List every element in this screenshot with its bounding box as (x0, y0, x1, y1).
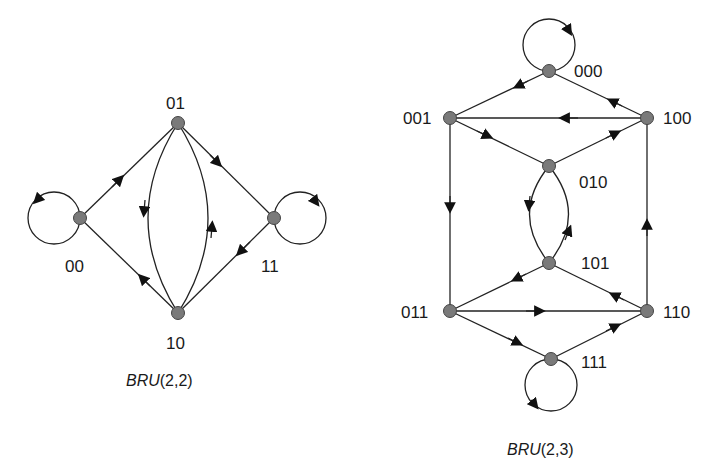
edge-011-111 (450, 311, 551, 359)
node-11 (268, 212, 281, 225)
node-010 (543, 160, 556, 173)
arrow-icon (144, 200, 145, 212)
arrow-icon (508, 338, 518, 343)
arrow-icon (612, 101, 622, 106)
edge-00-01 (80, 123, 178, 218)
label-101: 101 (581, 254, 609, 273)
edge-010-100 (549, 118, 647, 166)
node-100 (641, 112, 654, 125)
node-01 (172, 117, 185, 130)
node-000 (543, 65, 556, 78)
node-10 (172, 307, 185, 320)
graph-bru-2-3: 000 001 100 010 101 011 110 111 BRU(2,3) (401, 19, 691, 458)
label-00: 00 (65, 257, 84, 276)
label-111: 111 (581, 353, 607, 372)
caption-bru-2-3: BRU(2,3) (507, 441, 574, 458)
node-111 (545, 353, 558, 366)
edge-00-00-loop (28, 192, 80, 244)
arrow-icon (112, 179, 120, 187)
edge-101-011 (450, 263, 549, 311)
node-011 (444, 305, 457, 318)
label-100: 100 (663, 109, 691, 128)
node-110 (641, 305, 654, 318)
label-110: 110 (663, 303, 690, 322)
label-001: 001 (403, 109, 431, 128)
edge-10-01 (178, 123, 208, 313)
edge-001-010 (450, 118, 549, 166)
arrow-icon (606, 326, 616, 331)
label-010: 010 (579, 173, 607, 192)
caption-bru-2-2: BRU(2,2) (126, 372, 193, 389)
diagram-canvas: 01 00 11 10 BRU(2,2) (0, 0, 718, 475)
arrow-icon (477, 131, 488, 136)
edge-000-001 (450, 71, 549, 118)
label-10: 10 (166, 334, 185, 353)
arrow-icon (606, 133, 616, 138)
arrow-icon (142, 278, 150, 286)
edge-10-00 (80, 218, 178, 313)
node-00 (74, 212, 87, 225)
arrow-icon (313, 198, 316, 202)
arrow-icon (240, 242, 250, 252)
edge-01-10 (148, 123, 178, 313)
label-11: 11 (261, 257, 279, 276)
edge-010-101 (530, 166, 550, 263)
node-101 (543, 257, 556, 270)
edge-11-10 (178, 218, 274, 313)
arrow-icon (516, 274, 526, 279)
graph-bru-2-2: 01 00 11 10 BRU(2,2) (28, 94, 326, 389)
node-001 (444, 112, 457, 125)
arrow-icon (518, 81, 528, 86)
arrow-icon (211, 226, 212, 238)
arrow-icon (614, 295, 624, 300)
label-000: 000 (574, 62, 602, 81)
label-01: 01 (166, 94, 185, 113)
edge-101-010 (549, 166, 569, 263)
arrow-icon (210, 155, 218, 163)
edge-01-11 (178, 123, 274, 218)
edge-111-110 (551, 311, 647, 359)
edge-11-11-loop (274, 192, 326, 244)
label-011: 011 (401, 303, 428, 322)
